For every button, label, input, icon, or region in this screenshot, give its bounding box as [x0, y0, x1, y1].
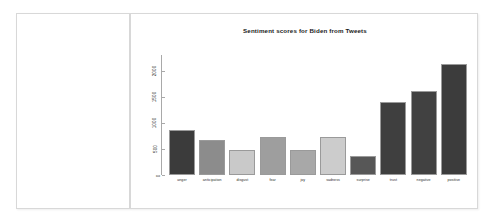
plot-area: 0500100015002000 angeranticipationdisgus… — [161, 42, 473, 176]
bar-negative — [411, 91, 437, 175]
bar-sadness — [320, 137, 346, 175]
bar-surprise — [350, 156, 376, 175]
y-tick-0: 0 — [162, 175, 165, 176]
left-blank-panel — [16, 13, 130, 209]
bar-positive — [441, 64, 467, 175]
bar-trust — [380, 102, 406, 175]
x-tick-label-surprise: surprise — [357, 178, 370, 182]
bar-series: angeranticipationdisgustfearjoysadnesssu… — [165, 42, 473, 175]
y-tick-label: 1000 — [152, 118, 157, 129]
y-tick-label: 1500 — [152, 92, 157, 103]
y-axis-line — [161, 55, 162, 175]
x-tick-label-anticipation: anticipation — [203, 178, 222, 182]
bar-chart: Sentiment scores for Biden from Tweets 0… — [131, 14, 479, 210]
x-tick-label-disgust: disgust — [237, 178, 249, 182]
y-tick-label: 0 — [156, 174, 161, 177]
bar-anger — [169, 130, 195, 175]
x-tick-label-positive: positive — [448, 178, 461, 182]
x-tick-label-anger: anger — [177, 178, 186, 182]
y-tick-label: 500 — [154, 145, 159, 153]
bar-fear — [260, 137, 286, 175]
bar-joy — [290, 150, 316, 175]
bar-disgust — [229, 150, 255, 175]
chart-panel: Sentiment scores for Biden from Tweets 0… — [130, 13, 478, 209]
x-tick-label-sadness: sadness — [326, 178, 340, 182]
x-tick-label-trust: trust — [390, 178, 397, 182]
chart-title: Sentiment scores for Biden from Tweets — [131, 27, 479, 34]
x-tick-label-fear: fear — [269, 178, 275, 182]
screenshot-root: Sentiment scores for Biden from Tweets 0… — [0, 0, 494, 220]
y-tick-label: 2000 — [152, 66, 157, 77]
bar-anticipation — [199, 140, 225, 175]
x-tick-label-joy: joy — [300, 178, 305, 182]
x-tick-label-negative: negative — [417, 178, 431, 182]
